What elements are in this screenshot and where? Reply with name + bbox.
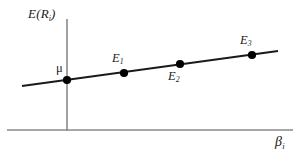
y-axis-label: E(Ri): [28, 7, 56, 20]
point-label-mu-text: μ: [56, 61, 63, 75]
y-axis-label-close: ): [51, 6, 56, 21]
data-point-mu: [63, 76, 71, 84]
point-label-e3-main: E: [240, 33, 248, 47]
data-point-e1: [120, 69, 128, 77]
x-axis-label-subscript: i: [282, 141, 284, 151]
plot-svg: [0, 0, 304, 154]
point-label-e1-subscript: 1: [120, 57, 124, 66]
point-label-e2: E2: [168, 70, 180, 83]
point-label-e3: E3: [240, 34, 252, 47]
x-axis-label: βi: [275, 135, 285, 149]
point-label-e1: E1: [112, 52, 124, 65]
point-label-e2-subscript: 2: [176, 75, 180, 84]
point-label-e1-main: E: [112, 51, 120, 65]
data-point-e3: [248, 51, 256, 59]
figure-canvas: E(Ri) βi μ E1 E2 E3: [0, 0, 304, 154]
point-label-e3-subscript: 3: [248, 39, 252, 48]
point-label-e2-main: E: [168, 69, 176, 83]
y-axis-label-subscript: i: [49, 14, 51, 23]
y-axis-label-main: E(R: [28, 6, 49, 21]
point-label-mu: μ: [56, 62, 63, 75]
data-point-e2: [176, 60, 184, 68]
